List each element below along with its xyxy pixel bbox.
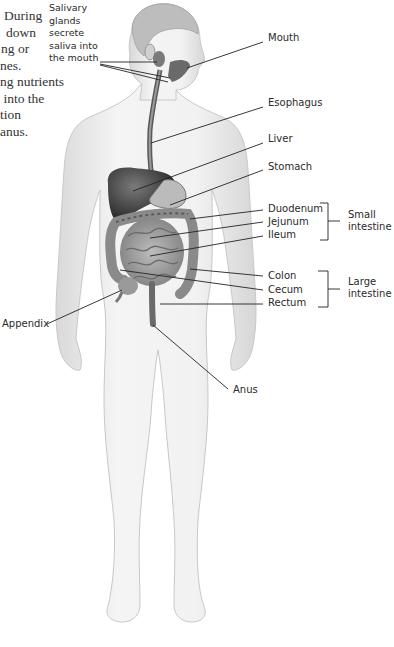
- label-line: the mouth: [49, 52, 98, 65]
- label-small-intestine: Small intestine: [348, 209, 392, 233]
- label-cecum: Cecum: [268, 284, 303, 296]
- label-appendix: Appendix: [2, 318, 49, 330]
- label-rectum: Rectum: [268, 297, 306, 309]
- human-body-illustration: [0, 0, 394, 647]
- label-line: Salivary: [49, 2, 98, 15]
- label-line: glands: [49, 15, 98, 28]
- label-colon: Colon: [268, 270, 296, 282]
- label-ileum: Ileum: [268, 229, 296, 241]
- label-salivary-glands: Salivary glands secrete saliva into the …: [49, 2, 98, 65]
- label-line: Large: [348, 276, 392, 288]
- label-jejunum: Jejunum: [268, 216, 309, 228]
- salivary-gland: [153, 51, 165, 67]
- label-stomach: Stomach: [268, 161, 312, 173]
- label-mouth: Mouth: [268, 32, 299, 44]
- label-anus: Anus: [233, 384, 258, 396]
- label-esophagus: Esophagus: [268, 97, 322, 109]
- label-duodenum: Duodenum: [268, 203, 323, 215]
- label-line: intestine: [348, 221, 392, 233]
- label-line: Small: [348, 209, 392, 221]
- label-line: secrete: [49, 27, 98, 40]
- rectum: [152, 284, 153, 324]
- label-liver: Liver: [268, 133, 293, 145]
- label-large-intestine: Large intestine: [348, 276, 392, 300]
- label-line: saliva into: [49, 40, 98, 53]
- label-line: intestine: [348, 288, 392, 300]
